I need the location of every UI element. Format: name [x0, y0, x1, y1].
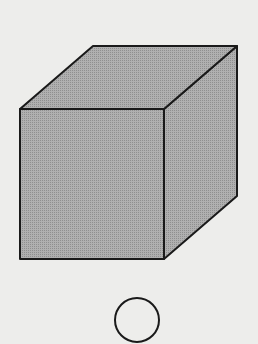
answer-circle: [115, 298, 159, 342]
cube-diagram: [0, 0, 258, 344]
cube-front-face: [20, 109, 164, 259]
diagram-canvas: [0, 0, 258, 344]
